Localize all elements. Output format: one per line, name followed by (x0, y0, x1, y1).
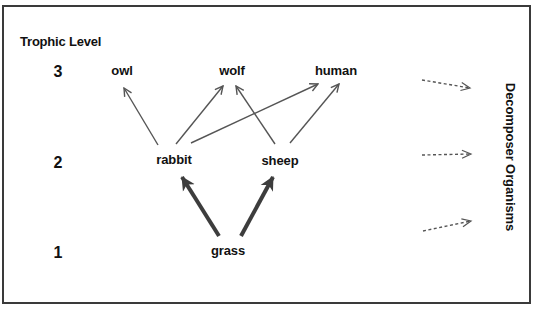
trophic-level-title: Trophic Level (20, 34, 101, 49)
decomposer-organisms-label: Decomposer Organisms (503, 83, 518, 231)
node-human: human (315, 64, 357, 77)
node-wolf: wolf (219, 64, 245, 77)
trophic-level-2-label: 2 (54, 155, 63, 171)
node-sheep: sheep (261, 154, 298, 167)
trophic-level-1-label: 1 (54, 245, 63, 261)
node-owl: owl (111, 64, 132, 77)
node-rabbit: rabbit (156, 153, 192, 166)
node-grass: grass (211, 244, 245, 257)
trophic-level-3-label: 3 (54, 64, 63, 80)
